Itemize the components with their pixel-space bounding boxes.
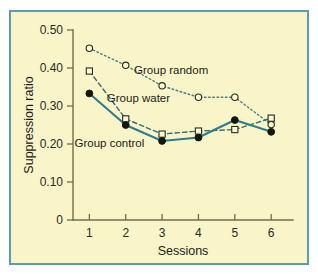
- x-axis-ticks: 123456: [86, 214, 275, 240]
- x-axis-title: Sessions: [158, 244, 209, 258]
- y-tick-label: 0.40: [40, 61, 64, 75]
- figure-root: 00.100.200.300.400.50 123456 Group rando…: [0, 0, 318, 274]
- marker-group-water: [123, 116, 129, 122]
- marker-group-random: [86, 45, 92, 51]
- marker-group-random: [268, 121, 274, 127]
- x-tick-label: 2: [122, 226, 129, 240]
- x-tick-label: 1: [86, 226, 93, 240]
- marker-group-random: [195, 94, 201, 100]
- marker-group-water: [232, 126, 238, 132]
- series-line-group-random: [89, 48, 271, 124]
- y-tick-label: 0.50: [40, 23, 64, 37]
- x-tick-label: 5: [231, 226, 238, 240]
- marker-group-control: [122, 122, 129, 129]
- x-tick-label: 3: [159, 226, 166, 240]
- y-tick-label: 0.30: [40, 99, 64, 113]
- series-label-group-random: Group random: [134, 64, 208, 76]
- marker-group-random: [159, 83, 165, 89]
- y-tick-label: 0: [56, 213, 63, 227]
- y-axis-ticks: 00.100.200.300.400.50: [40, 23, 73, 227]
- marker-group-water: [86, 68, 92, 74]
- series-label-group-water: Group water: [107, 92, 170, 104]
- suppression-ratio-line-chart: 00.100.200.300.400.50 123456 Group rando…: [11, 12, 311, 267]
- marker-group-water: [159, 131, 165, 137]
- marker-group-water: [268, 115, 274, 121]
- figure-frame: 00.100.200.300.400.50 123456 Group rando…: [9, 10, 309, 265]
- x-tick-label: 6: [268, 226, 275, 240]
- x-tick-label: 4: [195, 226, 202, 240]
- marker-group-control: [86, 90, 93, 97]
- y-tick-label: 0.20: [40, 137, 64, 151]
- y-axis-title: Suppression ratio: [22, 76, 36, 173]
- marker-group-control: [231, 117, 238, 124]
- marker-group-control: [195, 134, 202, 141]
- y-tick-label: 0.10: [40, 175, 64, 189]
- marker-group-water: [195, 128, 201, 134]
- marker-group-control: [268, 128, 275, 135]
- axes: [73, 30, 293, 220]
- marker-group-random: [123, 62, 129, 68]
- marker-group-random: [232, 94, 238, 100]
- marker-group-control: [159, 138, 166, 145]
- series-label-group-control: Group control: [75, 137, 145, 149]
- series-annotations: Group randomGroup waterGroup control: [75, 64, 209, 149]
